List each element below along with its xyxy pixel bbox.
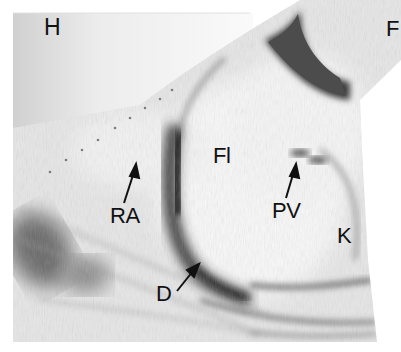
label-fluid: Fl [213,145,230,167]
label-kidney: K [337,225,351,247]
label-right-atrium: RA [110,205,140,227]
ultrasound-image [0,0,401,352]
label-portal-vein: PV [272,200,300,222]
label-head-direction: H [44,16,60,39]
label-diaphragm: D [156,283,171,305]
label-foot-direction: F [386,18,399,40]
